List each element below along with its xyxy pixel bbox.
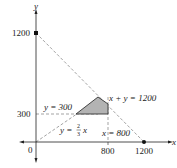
line-x-plus-y-1200 [36, 33, 144, 142]
x-axis-label: x [171, 137, 176, 147]
label-y-300: y = 300 [43, 102, 73, 112]
y-axis-arrow-down-icon [35, 158, 38, 163]
svg-text:y =: y = [59, 125, 72, 135]
label-x-plus-y-1200: x + y = 1200 [108, 93, 157, 103]
y-tick-1200: 1200 [12, 28, 31, 38]
axes [22, 12, 170, 160]
x-tick-1200: 1200 [135, 146, 154, 156]
label-x-800: x = 800 [101, 128, 131, 138]
y-tick-300: 300 [17, 109, 31, 119]
svg-text:3: 3 [77, 131, 80, 137]
point-y-1200 [34, 31, 38, 35]
dashed-lines [36, 33, 144, 142]
y-axis-label: y [33, 1, 38, 11]
point-x-1200 [142, 140, 146, 144]
x-tick-800: 800 [101, 146, 115, 156]
feasible-region [76, 97, 108, 114]
svg-text:2: 2 [77, 123, 80, 129]
svg-text:x: x [82, 125, 87, 135]
label-y-two-thirds-x: y = 2 3 x [59, 123, 87, 137]
x-axis-arrow-left-icon [19, 141, 24, 144]
origin-label: 0 [28, 145, 33, 155]
diagram-canvas: y x 0 1200 300 800 1200 x + y = 1200 y =… [0, 0, 177, 168]
